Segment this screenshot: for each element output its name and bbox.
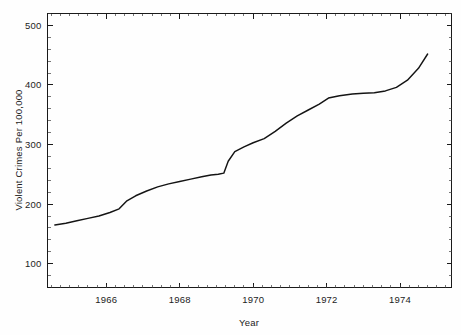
x-axis-minor-ticks (51, 14, 446, 288)
x-tick-label: 1968 (169, 294, 191, 305)
x-tick-label: 1974 (389, 294, 411, 305)
y-axis-title: Violent Crimes Per 100,000 (13, 89, 24, 210)
y-tick-label: 400 (25, 79, 41, 90)
y-tick-label: 100 (25, 258, 41, 269)
x-axis-title: Year (239, 317, 259, 328)
x-tick-label: 1972 (316, 294, 338, 305)
y-axis-tick-labels: 100200300400500 (25, 20, 41, 269)
y-tick-label: 200 (25, 199, 41, 210)
x-axis-tick-labels: 19661968197019721974 (95, 294, 411, 305)
x-tick-label: 1966 (95, 294, 117, 305)
data-series-line (55, 54, 428, 225)
line-chart: 100200300400500 19661968197019721974 Vio… (0, 0, 461, 335)
y-tick-label: 300 (25, 139, 41, 150)
chart-container: 100200300400500 19661968197019721974 Vio… (0, 0, 461, 335)
x-tick-label: 1970 (242, 294, 264, 305)
plot-area-border (48, 14, 452, 288)
y-tick-label: 500 (25, 20, 41, 31)
